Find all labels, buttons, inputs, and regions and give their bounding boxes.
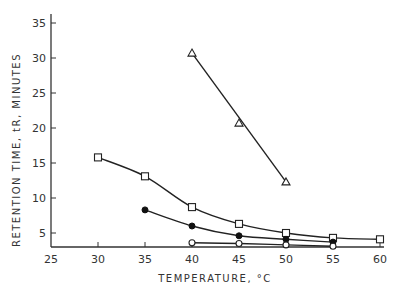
x-tick-label: 45 [232, 253, 246, 266]
series-curve [192, 53, 286, 182]
y-axis-title: RETENTION TIME, tR, MINUTES [11, 53, 22, 247]
open-circle-marker [236, 241, 242, 247]
square-marker [189, 204, 196, 211]
y-tick-label: 35 [32, 17, 46, 30]
series-curve [192, 243, 333, 247]
x-axis-title: TEMPERATURE, °C [157, 273, 272, 284]
square-marker [95, 154, 102, 161]
x-tick-label: 30 [91, 253, 105, 266]
y-tick-label: 10 [32, 192, 46, 205]
open-circle-marker [189, 240, 195, 246]
x-tick-label: 55 [326, 253, 340, 266]
axes: 51015202530352530354045505560 [32, 14, 387, 266]
square-marker [142, 173, 149, 180]
y-tick-label: 25 [32, 87, 46, 100]
open-circle-marker [330, 243, 336, 249]
markers [95, 49, 384, 249]
filled-circle-marker [142, 207, 148, 213]
square-marker [236, 220, 243, 227]
y-tick-label: 15 [32, 157, 46, 170]
y-tick-label: 20 [32, 122, 46, 135]
filled-circle-marker [189, 223, 195, 229]
square-marker [283, 230, 290, 237]
y-tick-label: 5 [39, 227, 46, 240]
x-tick-label: 35 [138, 253, 152, 266]
filled-circle-marker [236, 233, 242, 239]
x-tick-label: 40 [185, 253, 199, 266]
x-tick-label: 50 [279, 253, 293, 266]
triangle-marker [188, 49, 196, 56]
curves [98, 53, 380, 247]
x-tick-label: 60 [373, 253, 387, 266]
open-circle-marker [283, 242, 289, 248]
x-tick-label: 25 [44, 253, 58, 266]
retention-time-chart: 51015202530352530354045505560 TEMPERATUR… [0, 0, 398, 296]
square-marker [377, 236, 384, 243]
y-tick-label: 30 [32, 52, 46, 65]
